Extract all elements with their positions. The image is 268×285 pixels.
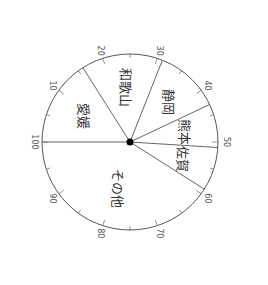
tick-label: 50: [222, 137, 231, 147]
minor-tick: [179, 210, 181, 213]
major-tick: [155, 58, 157, 64]
pie-chart: 102030405060708090100 愛媛和歌山静岡熊本佐賀その他: [0, 0, 268, 285]
slice-label: 熊本: [177, 119, 192, 145]
minor-tick: [46, 115, 50, 116]
tick-label: 10: [48, 80, 57, 90]
major-tick: [196, 90, 201, 94]
slice-divider: [130, 60, 162, 142]
minor-tick: [46, 168, 50, 169]
slice-divider: [130, 142, 204, 189]
slice-label: 佐賀: [175, 146, 190, 172]
slice-label: その他: [110, 169, 125, 208]
major-tick: [103, 220, 105, 226]
minor-tick: [179, 71, 181, 74]
tick-label: 90: [48, 193, 57, 203]
tick-label: 70: [155, 228, 164, 238]
tick-label: 60: [203, 193, 212, 203]
slice-label: 和歌山: [118, 68, 133, 107]
tick-label: 80: [96, 228, 105, 238]
minor-tick: [78, 210, 80, 213]
slice-divider: [130, 142, 218, 148]
major-tick: [59, 90, 64, 94]
major-tick: [103, 58, 105, 64]
tick-label: 20: [96, 46, 105, 56]
major-tick: [196, 190, 201, 194]
slice-labels: 愛媛和歌山静岡熊本佐賀その他: [76, 68, 192, 208]
minor-tick: [78, 71, 80, 74]
slice-label: 静岡: [161, 89, 176, 115]
minor-tick: [210, 168, 214, 169]
tick-label: 30: [155, 46, 164, 56]
slice-label: 愛媛: [76, 103, 91, 129]
major-tick: [59, 190, 64, 194]
tick-label: 40: [203, 80, 212, 90]
minor-tick: [210, 115, 214, 116]
major-tick: [155, 220, 157, 226]
tick-label: 100: [30, 134, 39, 149]
center-dot: [127, 139, 134, 146]
